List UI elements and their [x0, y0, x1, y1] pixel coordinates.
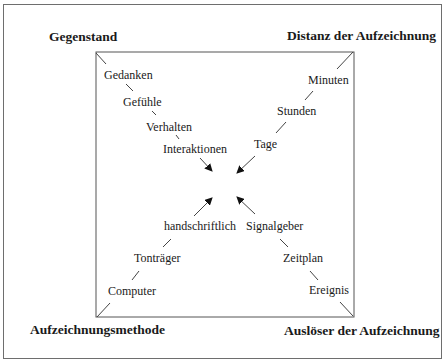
label-minuten: Minuten [308, 73, 349, 87]
label-interaktionen: Interaktionen [163, 142, 227, 156]
label-verhalten: Verhalten [146, 120, 192, 134]
label-computer: handschriftlich [164, 219, 236, 233]
label-ereignis: Ereignis [309, 283, 349, 297]
corner-title-gegenstand: Gegenstand [49, 29, 117, 45]
label-gefuehle: Gefühle [123, 95, 162, 109]
diagram-lines [0, 0, 446, 364]
label-zeitplan: Zeitplan [283, 251, 323, 265]
corner-title-ausloeser: Auslöser der Aufzeichnung [284, 323, 440, 339]
label-stunden: Stunden [277, 104, 316, 118]
label-tontraeger: Tonträger [134, 251, 180, 265]
label-handschriftlich: Computer [108, 284, 156, 298]
corner-title-distanz: Distanz der Aufzeichnung [287, 28, 436, 44]
label-signalgeber: Signalgeber [246, 219, 303, 233]
label-tage: Tage [254, 137, 277, 151]
corner-title-aufzeichnungsmethode: Aufzeichnungsmethode [30, 322, 165, 338]
label-gedanken: Gedanken [104, 68, 153, 82]
